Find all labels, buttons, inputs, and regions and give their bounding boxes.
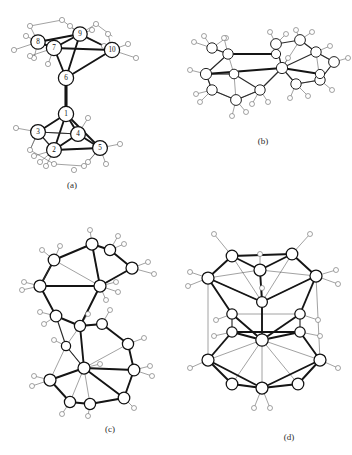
caption-d: (d) <box>263 432 315 442</box>
atom-9: 9 <box>73 27 87 41</box>
panel-c-ligand-atoms <box>20 228 157 419</box>
caption-b: (b) <box>237 136 289 146</box>
panel-b <box>190 28 352 128</box>
panel-c-structure <box>14 228 182 418</box>
atom-10: 10 <box>104 42 119 57</box>
panel-c <box>14 228 182 418</box>
panel-a: 8 9 10 7 6 <box>0 6 176 176</box>
panel-d-structure <box>188 228 348 418</box>
caption-a: (a) <box>46 180 98 190</box>
atom-1: 1 <box>58 106 73 121</box>
panel-a-structure: 8 9 10 7 6 <box>0 6 176 176</box>
atom-5: 5 <box>93 141 108 156</box>
figure-plate: 8 9 10 7 6 <box>0 0 352 455</box>
caption-c: (c) <box>84 424 136 434</box>
panel-d <box>188 228 348 418</box>
atom-2: 2 <box>47 143 62 158</box>
atom-6: 6 <box>58 70 73 85</box>
atom-4: 4 <box>71 127 86 142</box>
panel-b-structure <box>190 28 352 128</box>
atom-3: 3 <box>31 125 46 140</box>
atom-8: 8 <box>31 35 45 49</box>
atom-7: 7 <box>46 40 61 55</box>
panel-b-core-atoms <box>200 35 339 106</box>
